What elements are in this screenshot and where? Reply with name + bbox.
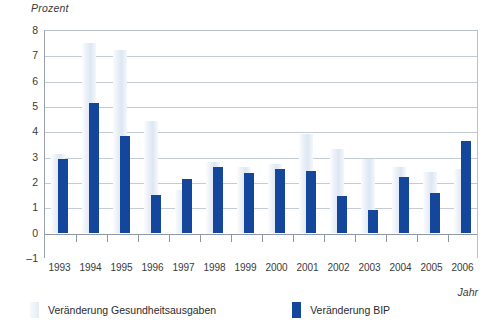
bar-bip-1999 — [244, 173, 254, 233]
plot-area — [44, 30, 478, 258]
y-tick-label-0: 0 — [8, 227, 38, 239]
x-tick-label-1997: 1997 — [172, 262, 194, 273]
x-tick-label-2006: 2006 — [451, 262, 473, 273]
y-tick-label-6: 6 — [8, 75, 38, 87]
x-tick-label-1996: 1996 — [141, 262, 163, 273]
bar-bip-1994 — [89, 103, 99, 232]
bar-bip-2002 — [337, 196, 347, 233]
x-tick-2006 — [448, 234, 449, 242]
x-tick-label-2001: 2001 — [296, 262, 318, 273]
x-tick-label-1999: 1999 — [234, 262, 256, 273]
gridline-6 — [45, 82, 477, 83]
x-tick-label-1995: 1995 — [110, 262, 132, 273]
bar-bip-2006 — [461, 141, 471, 232]
chart-legend: Veränderung Gesundheitsausgaben Veränder… — [30, 302, 390, 318]
gridline-5 — [45, 107, 477, 108]
chart-root: Prozent –1012345678 19931994199519961997… — [0, 0, 488, 332]
bar-bip-2003 — [368, 210, 378, 233]
y-tick-label-1: 1 — [8, 201, 38, 213]
x-tick-label-1993: 1993 — [48, 262, 70, 273]
y-tick-label-4: 4 — [8, 125, 38, 137]
x-tick-2002 — [324, 234, 325, 242]
gridline-3 — [45, 158, 477, 159]
y-axis-unit-label: Prozent — [31, 2, 69, 14]
plot-inner — [45, 31, 477, 258]
legend-item-gesundheitsausgaben: Veränderung Gesundheitsausgaben — [30, 302, 216, 318]
x-tick-label-2005: 2005 — [420, 262, 442, 273]
x-tick-2003 — [355, 234, 356, 242]
x-tick-1999 — [231, 234, 232, 242]
x-tick-label-2003: 2003 — [358, 262, 380, 273]
x-tick-label-1994: 1994 — [79, 262, 101, 273]
x-tick-label-2004: 2004 — [389, 262, 411, 273]
x-tick-2000 — [262, 234, 263, 242]
gridline-2 — [45, 183, 477, 184]
x-tick-label-1998: 1998 — [203, 262, 225, 273]
bar-bip-1993 — [58, 159, 68, 232]
bar-bip-2001 — [306, 171, 316, 233]
x-tick-2005 — [417, 234, 418, 242]
gridline-0 — [45, 234, 477, 235]
x-tick-2001 — [293, 234, 294, 242]
bar-bip-2000 — [275, 169, 285, 232]
gridline-1 — [45, 208, 477, 209]
bar-bip-1996 — [151, 195, 161, 233]
x-tick-label-2002: 2002 — [327, 262, 349, 273]
y-tick-label-2: 2 — [8, 176, 38, 188]
x-tick-1994 — [76, 234, 77, 242]
bar-bip-1995 — [120, 136, 130, 232]
bar-bip-2005 — [430, 193, 440, 232]
legend-label-gesundheitsausgaben: Veränderung Gesundheitsausgaben — [48, 304, 216, 316]
y-tick-label-5: 5 — [8, 100, 38, 112]
x-tick-1996 — [138, 234, 139, 242]
y-tick-label-7: 7 — [8, 49, 38, 61]
gridline-4 — [45, 132, 477, 133]
x-tick-1998 — [200, 234, 201, 242]
bar-bip-2004 — [399, 177, 409, 233]
x-tick-1997 — [169, 234, 170, 242]
y-tick-label-8: 8 — [8, 24, 38, 36]
bar-bip-1997 — [182, 179, 192, 232]
y-tick-label-3: 3 — [8, 151, 38, 163]
dark-blue-swatch-icon — [292, 302, 301, 318]
gridline-7 — [45, 56, 477, 57]
bar-bip-1998 — [213, 167, 223, 233]
x-axis-tick-labels: 1993199419951996199719981999200020012002… — [44, 262, 478, 282]
light-blue-swatch-icon — [30, 302, 39, 318]
x-tick-2004 — [386, 234, 387, 242]
x-tick-label-2000: 2000 — [265, 262, 287, 273]
x-tick-1995 — [107, 234, 108, 242]
y-tick-label--1: –1 — [8, 252, 38, 264]
legend-item-bip: Veränderung BIP — [292, 302, 390, 318]
y-axis-tick-labels: –1012345678 — [4, 30, 38, 258]
legend-label-bip: Veränderung BIP — [310, 304, 390, 316]
x-axis-unit-label: Jahr — [458, 286, 478, 298]
